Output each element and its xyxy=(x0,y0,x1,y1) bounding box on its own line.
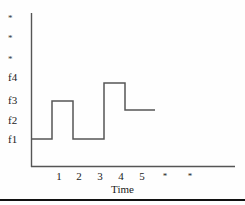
x-tick-label-2: 2 xyxy=(72,171,86,182)
y-tick-ellipsis-1: * xyxy=(8,55,30,64)
x-tick-label-3: 3 xyxy=(93,171,107,182)
step-function-figure: * * * f4 f3 f2 f1 1 2 3 4 5 * * Time xyxy=(0,0,245,205)
x-tick-label-4: 4 xyxy=(114,171,128,182)
x-tick-label-1: 1 xyxy=(52,171,66,182)
y-tick-label-f1: f1 xyxy=(8,134,30,145)
y-tick-ellipsis-2: * xyxy=(8,34,30,43)
x-tick-ellipsis-2: * xyxy=(183,172,197,181)
y-tick-label-f3: f3 xyxy=(8,95,30,106)
step-function-trace xyxy=(31,83,155,139)
y-tick-label-f4: f4 xyxy=(8,72,30,83)
x-axis-title: Time xyxy=(0,183,245,195)
bottom-divider xyxy=(0,199,245,201)
x-tick-ellipsis-1: * xyxy=(158,172,172,181)
y-tick-label-f2: f2 xyxy=(8,115,30,126)
x-tick-label-5: 5 xyxy=(135,171,149,182)
y-tick-ellipsis-3: * xyxy=(8,14,30,23)
